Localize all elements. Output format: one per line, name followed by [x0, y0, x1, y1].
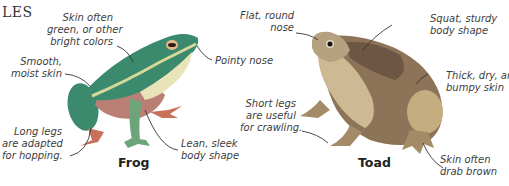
label-toad-thick-skin: Thick, dry, and bumpy skin	[446, 70, 509, 94]
caption-toad: Toad	[358, 155, 391, 170]
frog-toad-comparison-diagram: LES	[0, 0, 509, 186]
label-frog-long-legs: Long legs are adapted for hopping.	[2, 126, 62, 162]
label-frog-pointy-nose: Pointy nose	[215, 55, 273, 67]
label-frog-skin-color: Skin often green, or other bright colors	[47, 12, 113, 48]
label-toad-drab-skin: Skin often drab brown	[440, 154, 497, 178]
label-toad-flat-nose: Flat, round nose	[240, 10, 294, 34]
label-toad-squat-body: Squat, sturdy body shape	[430, 13, 497, 37]
label-toad-short-legs: Short legs are useful for crawling.	[240, 98, 296, 134]
label-frog-smooth-skin: Smooth, moist skin	[4, 56, 62, 80]
frog-illustration	[63, 34, 198, 148]
caption-frog: Frog	[118, 155, 149, 170]
toad-illustration	[300, 32, 443, 154]
label-frog-lean-body: Lean, sleek body shape	[181, 138, 239, 162]
